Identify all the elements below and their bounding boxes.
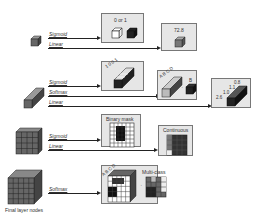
white-cube-icon [112, 28, 122, 38]
continuous-title: Continuous [163, 127, 188, 133]
black-cube-icon [127, 28, 137, 38]
multiclass-box: A B C D → Multi-class [101, 165, 158, 204]
linear-arrow-row1 [48, 48, 158, 49]
continuous-box: Continuous [158, 125, 193, 156]
multiclass-grid-icon [146, 177, 166, 197]
binary-mask-box: Binary mask [101, 114, 141, 147]
result-cube-icon [186, 84, 196, 94]
vector-node-icon [24, 88, 44, 108]
sigmoid-label-row3: Sigmoid [49, 133, 67, 139]
zero-or-one-label: 0 or 1 [114, 17, 127, 23]
multilabel-output-box: 1 0 0 1 [101, 61, 144, 91]
gray-cube-icon [175, 37, 185, 47]
softmax-result-label: B [189, 78, 192, 83]
scalar-node-icon [31, 36, 41, 46]
sigmoid-arrow-row1 [48, 38, 98, 39]
linear-arrow-row2 [48, 106, 209, 107]
regression-output-box: 72.8 [161, 23, 197, 51]
linear-arrow-row3 [48, 150, 155, 151]
softmax-arrow-row4 [48, 193, 98, 194]
regression-vector-icon [227, 86, 247, 106]
softmax-tensor-icon [108, 170, 136, 202]
binary-vector-icon [114, 68, 134, 88]
binary-mask-grid-icon [110, 123, 134, 147]
arrow-icon: → [138, 182, 143, 187]
continuous-grid-icon [167, 135, 187, 155]
vector-regression-output-box: 0.8 1.1 1.0 2.6 [211, 78, 251, 108]
softmax-arrow-row2 [48, 96, 157, 97]
sigmoid-label-row2: Sigmoid [49, 79, 67, 85]
sigmoid-arrow-row2 [48, 86, 98, 87]
linear-label-row2: Linear [49, 99, 63, 105]
linear-label-row3: Linear [49, 143, 63, 149]
multi-class-title: Multi-class [142, 169, 166, 175]
sigmoid-label-row1: Sigmoid [49, 31, 67, 37]
final-layer-caption: Final layer nodes [5, 207, 43, 213]
binary-output-box: 0 or 1 [101, 13, 144, 43]
softmax-output-box: A B C D → B [157, 70, 197, 100]
tensor-node-icon [8, 170, 42, 204]
arrow-icon: → [179, 84, 184, 89]
softmax-label-row2: Softmax [49, 89, 67, 95]
linear-label-row1: Linear [49, 41, 63, 47]
sigmoid-arrow-row3 [48, 140, 98, 141]
value-728-label: 72.8 [174, 27, 184, 33]
binary-mask-title: Binary mask [106, 116, 134, 122]
matrix-node-icon [16, 128, 42, 154]
reg-value-4: 2.6 [216, 95, 222, 100]
softmax-label-row4: Softmax [49, 186, 67, 192]
